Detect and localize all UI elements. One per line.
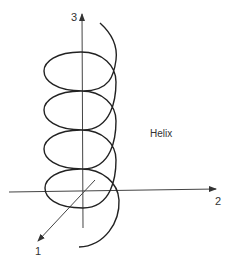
helix-curve bbox=[44, 23, 119, 247]
axis-3-label: 3 bbox=[71, 12, 77, 23]
helix-diagram bbox=[0, 0, 232, 263]
axis-3-line bbox=[82, 14, 83, 228]
axis-2-label: 2 bbox=[215, 196, 221, 207]
helix-label: Helix bbox=[150, 129, 172, 139]
axis-1-line bbox=[38, 180, 95, 241]
axis-1-label: 1 bbox=[35, 246, 41, 257]
axis-2-line bbox=[9, 189, 216, 192]
